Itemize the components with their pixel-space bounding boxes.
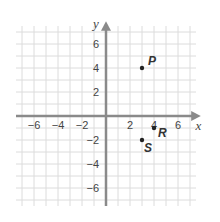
coordinate-plane: xy −6−4−2246642−2−4−6 PRS <box>0 0 220 222</box>
point-label-r: R <box>158 126 167 140</box>
point-label-s: S <box>144 141 152 155</box>
x-tick-label: −6 <box>28 119 41 131</box>
point-p <box>140 66 144 70</box>
x-tick-label: 2 <box>127 119 133 131</box>
x-tick-label: −2 <box>76 119 89 131</box>
y-tick-label: 6 <box>93 38 99 50</box>
y-tick-label: −4 <box>86 158 99 170</box>
x-tick-label: 6 <box>175 119 181 131</box>
point-label-p: P <box>148 54 157 68</box>
x-axis-label: x <box>195 118 202 133</box>
y-tick-label: 4 <box>93 62 99 74</box>
y-axis-label: y <box>91 16 99 31</box>
y-tick-label: 2 <box>93 86 99 98</box>
y-axis-arrow-icon <box>101 21 111 31</box>
x-tick-label: −4 <box>52 119 65 131</box>
y-tick-label: −6 <box>86 182 99 194</box>
axes: xy <box>16 16 202 206</box>
point-r <box>152 126 156 130</box>
y-tick-label: −2 <box>86 134 99 146</box>
